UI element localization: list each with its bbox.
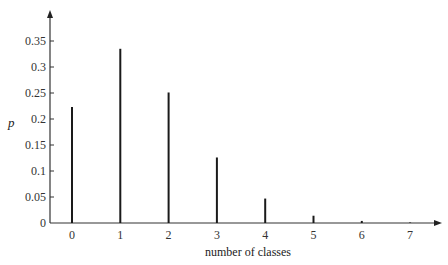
y-tick-label: 0.1 [31,164,46,178]
x-tick-label: 1 [117,228,123,242]
x-tick-label: 6 [359,228,365,242]
x-tick-label: 5 [311,228,317,242]
x-tick-label: 2 [166,228,172,242]
x-axis: 01234567 [50,220,442,242]
x-axis-title: number of classes [205,245,291,259]
x-tick-label: 4 [262,228,268,242]
y-tick-label: 0.3 [31,60,46,74]
y-axis-title: p [7,115,15,130]
chart: 00.050.10.150.20.250.30.35 01234567 p nu… [0,0,448,265]
y-tick-label: 0.25 [25,86,46,100]
y-axis: 00.050.10.150.20.250.30.35 [25,10,54,230]
y-tick-label: 0.35 [25,34,46,48]
y-tick-label: 0 [40,216,46,230]
y-tick-label: 0.2 [31,112,46,126]
y-tick-label: 0.05 [25,190,46,204]
y-axis-arrow-icon [47,10,53,18]
x-tick-label: 0 [69,228,75,242]
x-tick-label: 7 [407,228,413,242]
y-tick-label: 0.15 [25,138,46,152]
bars [72,49,410,223]
x-axis-arrow-icon [434,220,442,226]
x-tick-label: 3 [214,228,220,242]
